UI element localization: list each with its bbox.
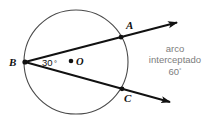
point-marker-c bbox=[120, 86, 125, 91]
arc-value: 60 bbox=[169, 66, 180, 77]
angle-label-30: 30° bbox=[42, 57, 57, 68]
point-label-c: C bbox=[124, 92, 132, 104]
arc-caption-line-2: interceptado bbox=[137, 55, 213, 66]
angle-degree-symbol: ° bbox=[54, 59, 57, 68]
arc-caption-line-3: 60° bbox=[137, 65, 213, 78]
center-label-o: O bbox=[76, 56, 84, 67]
center-marker-o bbox=[69, 59, 74, 64]
arc-degree-symbol: ° bbox=[179, 67, 181, 73]
geometry-figure: A B C 30° O arco interceptado 60° bbox=[0, 0, 213, 123]
point-marker-b bbox=[22, 59, 27, 64]
angle-value: 30 bbox=[42, 57, 53, 68]
point-label-a: A bbox=[125, 19, 133, 31]
point-marker-a bbox=[119, 35, 124, 40]
arc-caption: arco interceptado 60° bbox=[137, 44, 213, 78]
point-label-b: B bbox=[8, 56, 16, 68]
arc-caption-line-1: arco bbox=[137, 44, 213, 55]
